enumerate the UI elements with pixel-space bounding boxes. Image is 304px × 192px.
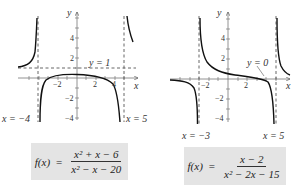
left-horizontal-asymptote-label: y = 1 bbox=[88, 57, 110, 68]
left-vertical-asymptote-label-5: x = 5 bbox=[125, 113, 147, 124]
left-formula-numerator: x² + x − 6 bbox=[71, 148, 121, 162]
right-y-tick-neg4: −4 bbox=[215, 114, 224, 123]
left-formula-fraction: x² + x − 6 x² − x − 20 bbox=[68, 148, 124, 175]
right-y-tick-neg2: −2 bbox=[215, 94, 224, 103]
right-curve-branch-2 bbox=[200, 18, 274, 124]
right-vertical-asymptote-label-neg3: x = −3 bbox=[181, 130, 210, 141]
left-curve-branch-1 bbox=[18, 18, 37, 67]
left-curve-branch-3 bbox=[127, 16, 133, 42]
left-vertical-asymptote-label-neg4: x = −4 bbox=[1, 113, 30, 124]
right-y-tick-4: 4 bbox=[221, 34, 225, 43]
left-y-tick-neg2: −2 bbox=[65, 94, 74, 103]
left-y-tick-neg4: −4 bbox=[65, 114, 74, 123]
right-graph: y x −2 2 4 2 −2 −4 y = 0 x = −3 x = 5 bbox=[170, 7, 291, 141]
left-y-tick-2: 2 bbox=[70, 54, 74, 63]
right-y-axis-label: y bbox=[216, 7, 222, 18]
right-formula-equals: = bbox=[209, 160, 215, 172]
right-formula-denominator: x² − 2x − 15 bbox=[221, 167, 282, 180]
left-formula-fname: f(x) bbox=[35, 156, 50, 168]
right-formula-fname: f(x) bbox=[188, 160, 203, 172]
right-y-tick-2: 2 bbox=[221, 54, 225, 63]
right-curve-branch-1 bbox=[170, 80, 198, 124]
left-curve-branch-2 bbox=[40, 74, 120, 122]
right-x-tick-2: 2 bbox=[244, 81, 248, 90]
right-x-axis-label: x bbox=[285, 80, 291, 91]
right-curve-branch-3 bbox=[277, 18, 290, 75]
left-y-tick-4: 4 bbox=[70, 34, 74, 43]
left-x-tick-2: 2 bbox=[93, 80, 97, 89]
left-y-axis-label: y bbox=[66, 7, 72, 18]
right-formula-numerator: x − 2 bbox=[237, 153, 266, 167]
left-x-tick-4: 4 bbox=[112, 80, 116, 89]
left-x-axis-label: x bbox=[133, 80, 139, 91]
left-formula-equals: = bbox=[56, 156, 62, 168]
left-graph: y x −2 2 4 4 2 −2 −4 y = 1 x = −4 x = 5 bbox=[1, 7, 147, 124]
left-formula-denominator: x² − x − 20 bbox=[68, 162, 124, 175]
right-formula-box: f(x) = x − 2 x² − 2x − 15 bbox=[184, 147, 286, 185]
left-formula-box: f(x) = x² + x − 6 x² − x − 20 bbox=[31, 143, 128, 180]
right-x-tick-neg2: −2 bbox=[201, 81, 210, 90]
right-vertical-asymptote-label-5: x = 5 bbox=[262, 130, 284, 141]
left-x-tick-neg2: −2 bbox=[53, 80, 62, 89]
right-horizontal-asymptote-label: y = 0 bbox=[246, 57, 268, 68]
right-formula-fraction: x − 2 x² − 2x − 15 bbox=[221, 153, 282, 180]
